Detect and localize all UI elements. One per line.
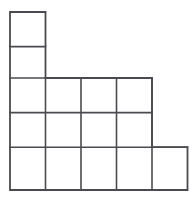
figure-canvas bbox=[0, 0, 194, 206]
grid-lines-group bbox=[10, 12, 188, 190]
figure-outline bbox=[10, 12, 188, 190]
staircase-grid-figure bbox=[0, 0, 194, 206]
